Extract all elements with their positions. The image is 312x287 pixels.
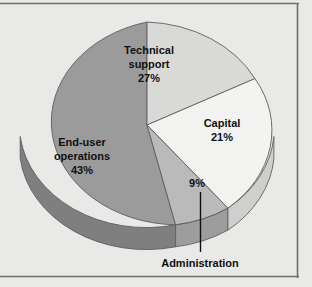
capital-label-line1: Capital <box>204 117 241 129</box>
administration-value: 9% <box>189 177 205 189</box>
technical-support-label-line2: support <box>129 58 170 70</box>
capital-value: 21% <box>211 131 233 143</box>
pie-chart-figure: Technical support 27% Capital 21% End-us… <box>0 0 312 287</box>
administration-label: Administration <box>161 257 239 269</box>
technical-support-label-line1: Technical <box>124 44 174 56</box>
end-user-label-line1: End-user <box>58 136 106 148</box>
end-user-label-line2: operations <box>54 150 110 162</box>
technical-support-value: 27% <box>138 72 160 84</box>
end-user-value: 43% <box>71 164 93 176</box>
pie-chart-canvas: Technical support 27% Capital 21% End-us… <box>0 0 312 287</box>
